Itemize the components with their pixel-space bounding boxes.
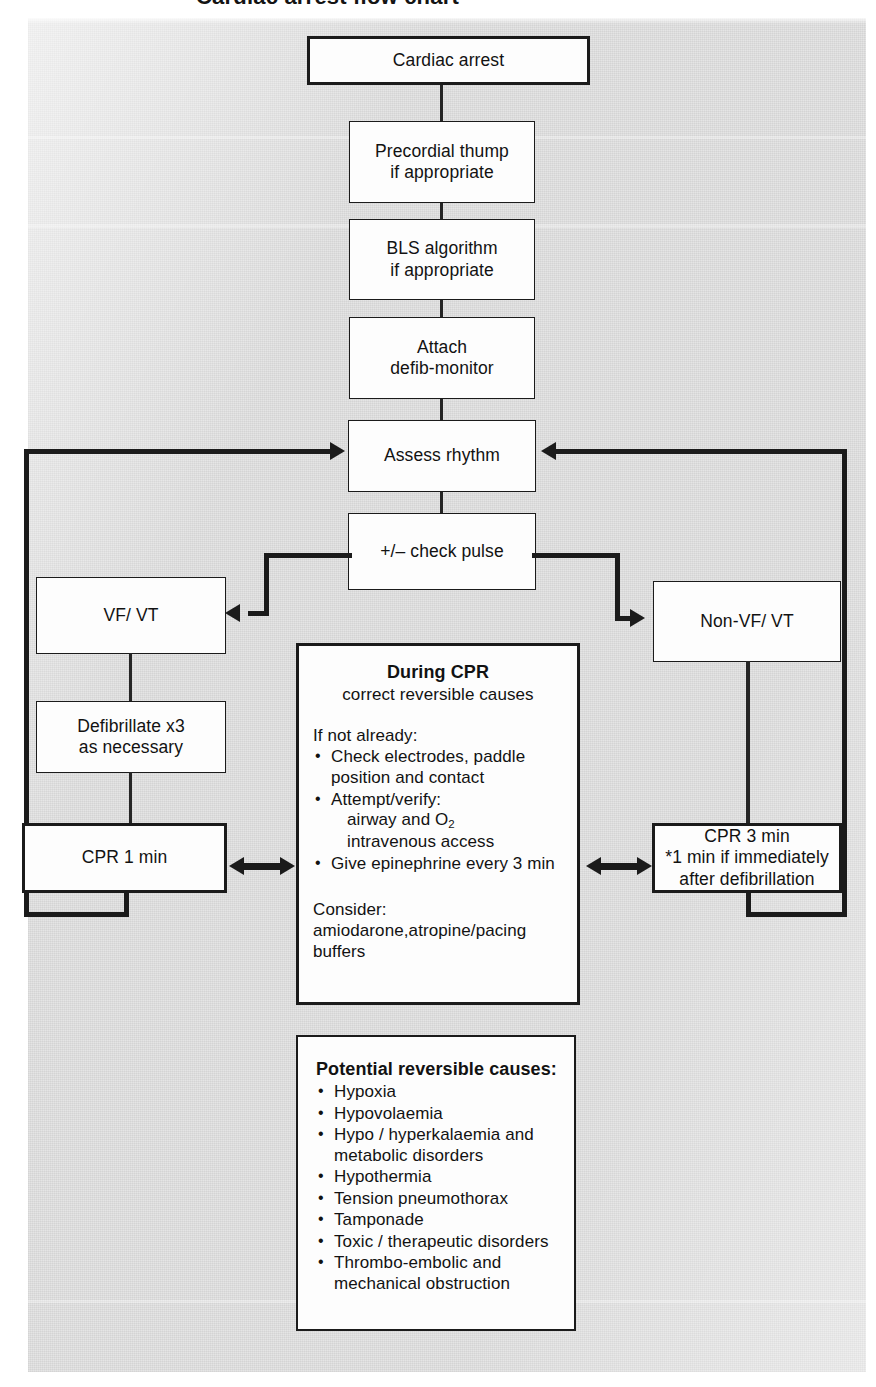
double-arrow-left-head-left: [229, 857, 244, 875]
during-cpr-consider-line1: amiodarone,atropine/pacing: [313, 921, 526, 940]
node-assess-rhythm[interactable]: Assess rhythm: [348, 420, 536, 492]
during-cpr-bullet-1-line1: Check electrodes, paddle: [331, 747, 525, 766]
potential-causes-item-2: Hypovolaemia: [316, 1104, 560, 1125]
during-cpr-bullet-2: Attempt/verify: airway and O2 intravenou…: [313, 790, 563, 853]
during-cpr-bullet-2-sub2: intravenous access: [331, 832, 563, 853]
connector-assess-to-pulse: [440, 491, 443, 513]
potential-causes-item-8-line2: mechanical obstruction: [334, 1274, 510, 1293]
during-cpr-heading: During CPR: [313, 662, 563, 684]
during-cpr-bullet-2-sub1: airway and O2: [331, 810, 563, 832]
loop-left-bottom-horizontal: [24, 912, 129, 917]
during-cpr-bullet-3: Give epinephrine every 3 min: [313, 854, 563, 875]
node-defibrillate-line1: Defibrillate x3: [77, 716, 185, 736]
double-arrow-right-shaft: [599, 863, 639, 870]
node-attach-defib-label: Attach defib-monitor: [350, 337, 534, 380]
node-cpr-3-min-label: CPR 3 min *1 min if immediately after de…: [655, 826, 839, 890]
node-attach-defib-monitor[interactable]: Attach defib-monitor: [349, 317, 535, 399]
loop-right-top-horizontal: [556, 449, 847, 454]
potential-causes-item-8: Thrombo-embolic and mechanical obstructi…: [316, 1253, 560, 1294]
node-defibrillate[interactable]: Defibrillate x3 as necessary: [36, 701, 226, 773]
node-cpr-1-min-label: CPR 1 min: [25, 847, 224, 868]
during-cpr-bullet-1: Check electrodes, paddle position and co…: [313, 747, 563, 788]
node-cpr-3-min-line1: CPR 3 min: [704, 826, 790, 846]
node-bls-algorithm-line2: if appropriate: [390, 260, 494, 280]
node-cardiac-arrest-label: Cardiac arrest: [310, 50, 587, 71]
branch-right-arrowhead-into-non-vf-vt: [630, 609, 645, 627]
node-attach-defib-line2: defib-monitor: [390, 358, 493, 378]
loop-right-bottom-horizontal: [746, 912, 847, 917]
node-bls-algorithm-label: BLS algorithm if appropriate: [350, 238, 534, 281]
potential-causes-item-4: Hypothermia: [316, 1167, 560, 1188]
potential-causes-item-3-line2: metabolic disorders: [334, 1146, 483, 1165]
node-check-pulse[interactable]: +/– check pulse: [348, 513, 536, 590]
flowchart-page: Cardiac arrest flow chart Cardiac arrest…: [0, 0, 876, 1387]
double-arrow-left: [229, 850, 295, 882]
potential-causes-item-3: Hypo / hyperkalaemia and metabolic disor…: [316, 1125, 560, 1166]
connector-bls-to-attach: [440, 299, 443, 317]
loop-right-vertical: [842, 449, 847, 917]
page-title: Cardiac arrest flow chart: [0, 0, 876, 16]
during-cpr-bullet-2-line1: Attempt/verify:: [331, 790, 441, 809]
node-vf-vt[interactable]: VF/ VT: [36, 577, 226, 654]
loop-left-arrowhead-into-assess-rhythm: [330, 442, 345, 460]
connector-arrest-to-thump: [440, 84, 443, 122]
potential-causes-heading: Potential reversible causes:: [316, 1059, 560, 1081]
node-attach-defib-line1: Attach: [417, 337, 467, 357]
during-cpr-consider-label: Consider:: [313, 900, 387, 919]
during-cpr-o2-subscript: 2: [448, 818, 455, 830]
during-cpr-subheading: correct reversible causes: [313, 685, 563, 706]
node-cardiac-arrest[interactable]: Cardiac arrest: [307, 36, 590, 85]
loop-right-arrowhead-into-assess-rhythm: [541, 442, 556, 460]
node-non-vf-vt-label: Non-VF/ VT: [654, 611, 840, 632]
branch-right-horizontal: [532, 553, 620, 558]
connector-defibrillate-to-cpr1: [129, 772, 132, 824]
during-cpr-airway-text: airway and O: [347, 810, 448, 829]
branch-left-arrowhead-into-vf-vt: [225, 604, 240, 622]
node-vf-vt-label: VF/ VT: [37, 605, 225, 626]
node-cpr-1-min[interactable]: CPR 1 min: [22, 823, 227, 893]
potential-causes-item-3-line1: Hypo / hyperkalaemia and: [334, 1125, 534, 1144]
during-cpr-consider-block: Consider: amiodarone,atropine/pacing buf…: [313, 900, 563, 962]
potential-causes-item-1: Hypoxia: [316, 1082, 560, 1103]
node-bls-algorithm-line1: BLS algorithm: [386, 238, 497, 258]
potential-causes-item-7: Toxic / therapeutic disorders: [316, 1232, 560, 1253]
node-non-vf-vt[interactable]: Non-VF/ VT: [653, 581, 841, 662]
connector-thump-to-bls: [440, 202, 443, 220]
connector-nonvfvt-to-cpr3: [746, 661, 750, 824]
loop-left-top-horizontal: [24, 449, 330, 454]
node-bls-algorithm[interactable]: BLS algorithm if appropriate: [349, 219, 535, 300]
double-arrow-left-head-right: [280, 857, 295, 875]
node-cpr-3-min-line2: *1 min if immediately: [665, 847, 829, 867]
node-assess-rhythm-label: Assess rhythm: [349, 445, 535, 466]
during-cpr-bullet-list: Check electrodes, paddle position and co…: [313, 747, 563, 874]
during-cpr-bullet-1-line2: position and contact: [331, 768, 484, 787]
branch-left-into-box: [248, 611, 269, 616]
during-cpr-lead: If not already:: [313, 726, 563, 747]
panel-during-cpr[interactable]: During CPR correct reversible causes If …: [296, 643, 580, 1005]
double-arrow-right-head-left: [586, 857, 601, 875]
node-precordial-thump-line1: Precordial thump: [375, 141, 509, 161]
page-title-text: Cardiac arrest flow chart: [196, 0, 459, 10]
potential-causes-item-5: Tension pneumothorax: [316, 1189, 560, 1210]
node-defibrillate-label: Defibrillate x3 as necessary: [37, 716, 225, 759]
during-cpr-consider-line2: buffers: [313, 942, 365, 961]
double-arrow-left-shaft: [242, 863, 282, 870]
potential-causes-item-6: Tamponade: [316, 1210, 560, 1231]
panel-potential-causes[interactable]: Potential reversible causes: Hypoxia Hyp…: [296, 1035, 576, 1331]
connector-attach-to-assess: [440, 399, 443, 421]
branch-left-vertical: [264, 553, 269, 616]
node-cpr-3-min-line3: after defibrillation: [679, 869, 814, 889]
potential-causes-list: Hypoxia Hypovolaemia Hypo / hyperkalaemi…: [316, 1082, 560, 1295]
double-arrow-right: [586, 850, 652, 882]
branch-left-horizontal: [264, 553, 352, 558]
potential-causes-item-8-line1: Thrombo-embolic and: [334, 1253, 501, 1272]
node-precordial-thump-label: Precordial thump if appropriate: [350, 141, 534, 184]
node-precordial-thump-line2: if appropriate: [390, 162, 494, 182]
node-precordial-thump[interactable]: Precordial thump if appropriate: [349, 121, 535, 203]
node-check-pulse-label: +/– check pulse: [349, 541, 535, 562]
double-arrow-right-head-right: [637, 857, 652, 875]
node-defibrillate-line2: as necessary: [79, 737, 183, 757]
node-cpr-3-min[interactable]: CPR 3 min *1 min if immediately after de…: [652, 823, 842, 893]
branch-right-vertical: [615, 553, 620, 621]
connector-vfvt-to-defibrillate: [129, 653, 132, 702]
